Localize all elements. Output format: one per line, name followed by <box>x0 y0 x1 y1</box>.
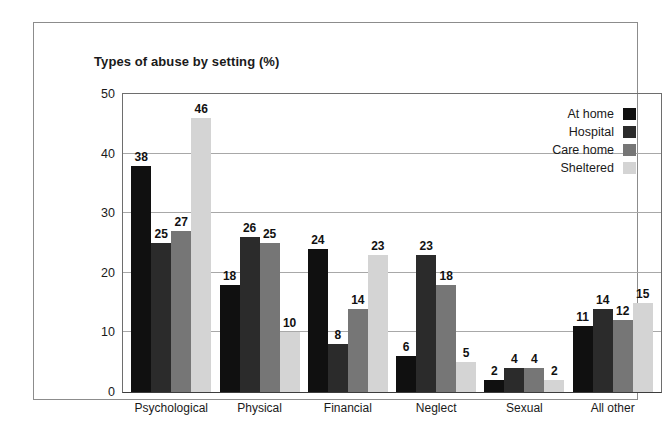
bar-value-label: 23 <box>419 239 432 253</box>
bar-value-label: 25 <box>155 227 168 241</box>
bar-value-label: 12 <box>616 304 629 318</box>
legend-item[interactable]: Care home <box>504 141 636 159</box>
legend-item[interactable]: Sheltered <box>504 159 636 177</box>
bar-value-label: 14 <box>596 293 609 307</box>
bar[interactable]: 18 <box>220 285 240 392</box>
bar[interactable]: 46 <box>191 118 211 392</box>
y-axis-tick-label: 30 <box>101 206 115 220</box>
legend-label: Hospital <box>569 125 614 139</box>
bar-value-label: 2 <box>491 364 498 378</box>
bar[interactable]: 27 <box>171 231 191 392</box>
legend-swatch-icon <box>623 108 636 120</box>
bar[interactable]: 8 <box>328 344 348 392</box>
bar[interactable]: 23 <box>368 255 388 392</box>
legend-swatch-icon <box>623 126 636 138</box>
legend-swatch-icon <box>623 162 636 174</box>
bar-value-label: 25 <box>263 227 276 241</box>
bar[interactable]: 2 <box>484 380 504 392</box>
bar-group: 18262510Physical <box>220 94 300 392</box>
bar[interactable]: 11 <box>573 326 593 392</box>
bar-value-label: 18 <box>439 269 452 283</box>
y-axis-tick-label: 20 <box>101 266 115 280</box>
bar[interactable]: 14 <box>348 309 368 392</box>
bar-value-label: 23 <box>371 239 384 253</box>
bar[interactable]: 26 <box>240 237 260 392</box>
x-axis-category-label: Sexual <box>506 401 543 415</box>
bar-value-label: 26 <box>243 221 256 235</box>
bar[interactable]: 25 <box>260 243 280 392</box>
y-axis-tick-label: 10 <box>101 325 115 339</box>
bar[interactable]: 10 <box>280 332 300 392</box>
bar-value-label: 5 <box>463 346 470 360</box>
bar-group: 2481423Financial <box>308 94 388 392</box>
bar-value-label: 4 <box>531 352 538 366</box>
bar-value-label: 38 <box>135 150 148 164</box>
chart-title: Types of abuse by setting (%) <box>94 54 279 69</box>
bar[interactable]: 14 <box>593 309 613 392</box>
bar[interactable]: 24 <box>308 249 328 392</box>
bar[interactable]: 15 <box>633 303 653 392</box>
y-axis-tick-label: 50 <box>101 87 115 101</box>
bar-value-label: 10 <box>283 316 296 330</box>
bar-value-label: 27 <box>175 215 188 229</box>
bar[interactable]: 4 <box>504 368 524 392</box>
bar[interactable]: 18 <box>436 285 456 392</box>
bar-value-label: 18 <box>223 269 236 283</box>
legend-label: At home <box>567 107 614 121</box>
y-axis-tick-label: 40 <box>101 147 115 161</box>
bar-value-label: 8 <box>335 328 342 342</box>
bar[interactable]: 2 <box>544 380 564 392</box>
bar-value-label: 46 <box>195 102 208 116</box>
bar[interactable]: 23 <box>416 255 436 392</box>
x-axis-category-label: Financial <box>324 401 372 415</box>
x-axis-category-label: Psychological <box>135 401 208 415</box>
legend-item[interactable]: At home <box>504 105 636 123</box>
bar[interactable]: 12 <box>613 320 633 392</box>
chart-legend: At homeHospitalCare homeSheltered <box>504 105 636 177</box>
chart-figure: Types of abuse by setting (%) 0102030405… <box>0 0 670 422</box>
legend-label: Care home <box>552 143 614 157</box>
bar-group: 623185Neglect <box>396 94 476 392</box>
x-axis-category-label: All other <box>591 401 635 415</box>
x-axis-category-label: Neglect <box>416 401 457 415</box>
bar-value-label: 4 <box>511 352 518 366</box>
bar-value-label: 24 <box>311 233 324 247</box>
bar[interactable]: 5 <box>456 362 476 392</box>
bar-value-label: 2 <box>551 364 558 378</box>
legend-label: Sheltered <box>560 161 614 175</box>
y-axis-tick-label: 0 <box>108 385 115 399</box>
bar[interactable]: 6 <box>396 356 416 392</box>
bar[interactable]: 4 <box>524 368 544 392</box>
bar-value-label: 15 <box>636 287 649 301</box>
bar[interactable]: 25 <box>151 243 171 392</box>
x-axis-category-label: Physical <box>237 401 282 415</box>
chart-frame: Types of abuse by setting (%) 0102030405… <box>33 22 638 400</box>
bar-value-label: 6 <box>403 340 410 354</box>
legend-item[interactable]: Hospital <box>504 123 636 141</box>
bar-group: 38252746Psychological <box>131 94 211 392</box>
bar-value-label: 11 <box>576 310 589 324</box>
legend-swatch-icon <box>623 144 636 156</box>
bar-value-label: 14 <box>351 293 364 307</box>
bar[interactable]: 38 <box>131 166 151 392</box>
